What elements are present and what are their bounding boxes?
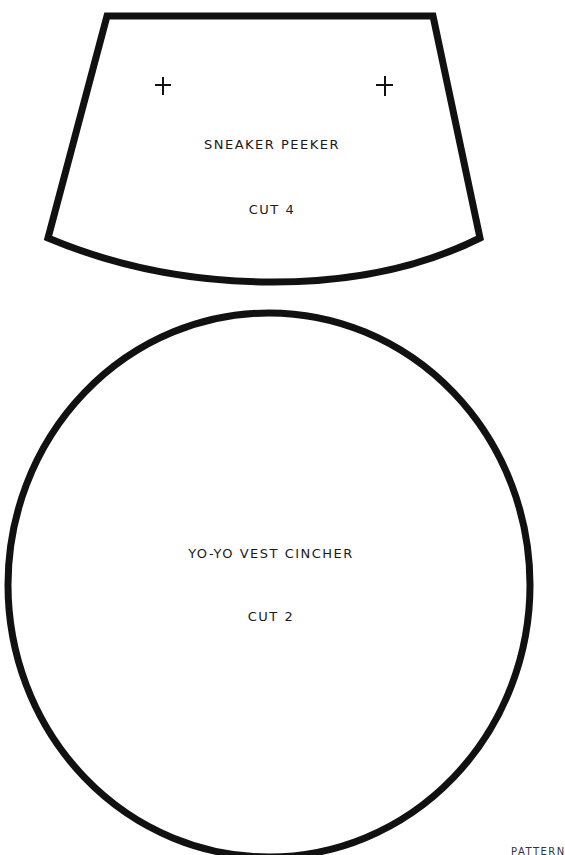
plus-mark-right [376, 76, 393, 96]
pattern-sheet [0, 0, 565, 855]
yo-yo-vest-cincher-outline [8, 313, 530, 855]
sneaker-peeker-cut-count: CUT 4 [249, 202, 295, 217]
plus-mark-left [155, 77, 171, 95]
sneaker-peeker-title: SNEAKER PEEKER [204, 137, 340, 152]
yo-yo-vest-cincher-title: YO-YO VEST CINCHER [188, 546, 354, 561]
pattern-footer-label: PATTERN [511, 846, 565, 855]
yo-yo-vest-cincher-cut-count: CUT 2 [248, 609, 294, 624]
